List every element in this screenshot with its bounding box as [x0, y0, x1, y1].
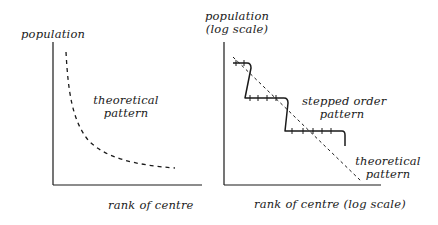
left-curve-label: theoretical pattern — [91, 94, 161, 120]
left-y-axis-label: population — [21, 28, 85, 41]
stepped-order-label-line2: pattern — [302, 108, 382, 121]
left-curve-label-line2: pattern — [91, 107, 161, 120]
right-y-axis-label: population (log scale) — [197, 10, 277, 36]
right-y-axis-label-line2: (log scale) — [197, 23, 277, 36]
stepped-order-label: stepped order pattern — [302, 95, 382, 121]
right-theoretical-label: theoretical pattern — [352, 155, 424, 181]
left-x-axis-label: rank of centre — [108, 199, 194, 212]
right-x-axis-label: rank of centre (log scale) — [254, 198, 406, 211]
right-theoretical-label-line2: pattern — [352, 168, 424, 181]
